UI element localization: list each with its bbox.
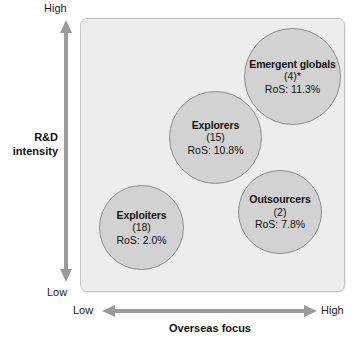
bubble-label-ros: RoS: 11.3% — [265, 83, 320, 95]
bubble-label-name: Emergent globals — [249, 58, 336, 70]
bubble-outsourcers[interactable]: Outsourcers (2) RoS: 7.8% — [238, 170, 322, 254]
bubble-label-name: Exploiters — [117, 209, 167, 221]
bubble-label-ros: RoS: 2.0% — [116, 234, 166, 246]
x-axis-arrow-icon — [102, 305, 317, 317]
bubble-label-ros: RoS: 7.8% — [255, 218, 305, 230]
plot-area: Emergent globals (4)* RoS: 11.3% Explore… — [80, 18, 345, 292]
x-axis-title: Overseas focus — [118, 322, 302, 336]
bubble-label-count: (4)* — [284, 70, 301, 82]
bubble-label-name: Outsourcers — [249, 193, 310, 205]
y-axis-title-text: R&Dintensity — [13, 131, 58, 157]
bubble-label-count: (18) — [132, 221, 151, 233]
bubble-label-name: Explorers — [192, 119, 240, 131]
bubble-label-count: (2) — [274, 206, 287, 218]
y-axis-low-label: Low — [47, 286, 67, 298]
y-axis-title: R&Dintensity — [2, 131, 58, 159]
x-axis-high-label: High — [321, 304, 344, 316]
x-axis-low-label: Low — [73, 304, 93, 316]
bubble-chart: Emergent globals (4)* RoS: 11.3% Explore… — [0, 0, 356, 341]
y-axis-arrow-icon — [60, 20, 72, 282]
bubble-emergent-globals[interactable]: Emergent globals (4)* RoS: 11.3% — [244, 28, 341, 125]
y-axis-high-label: High — [44, 2, 67, 14]
bubble-label-ros: RoS: 10.8% — [187, 144, 243, 156]
bubble-label-count: (15) — [206, 131, 225, 143]
bubble-explorers[interactable]: Explorers (15) RoS: 10.8% — [169, 91, 262, 184]
bubble-exploiters[interactable]: Exploiters (18) RoS: 2.0% — [99, 185, 184, 270]
